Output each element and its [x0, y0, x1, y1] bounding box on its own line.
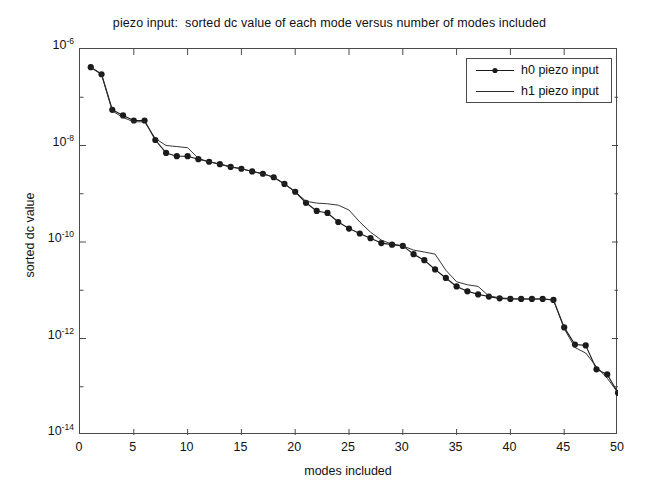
y-axis-tick-labels: 10-610-810-1010-1210-14 — [0, 0, 74, 501]
x-tick-label: 0 — [59, 440, 99, 454]
x-tick-label: 25 — [328, 440, 368, 454]
legend-entry-h1: h1 piezo input — [467, 81, 613, 102]
chart-title: piezo input: sorted dc value of each mod… — [0, 16, 659, 30]
y-axis-label: sorted dc value — [23, 145, 37, 325]
legend-sample-marker-line-icon — [474, 60, 516, 81]
chart-legend: h0 piezo input h1 piezo input — [466, 58, 612, 103]
y-tick-label: 10-8 — [53, 135, 74, 149]
chart-figure: piezo input: sorted dc value of each mod… — [0, 0, 659, 501]
legend-label-h0: h0 piezo input — [521, 63, 599, 77]
x-tick-label: 5 — [113, 440, 153, 454]
x-tick-label: 40 — [489, 440, 529, 454]
legend-sample-line-icon — [474, 81, 516, 102]
y-tick-label: 10-6 — [53, 38, 74, 52]
legend-label-h1: h1 piezo input — [521, 84, 599, 98]
x-tick-label: 50 — [597, 440, 637, 454]
plot-area — [79, 48, 617, 434]
x-tick-label: 10 — [167, 440, 207, 454]
x-tick-label: 30 — [382, 440, 422, 454]
x-tick-label: 15 — [220, 440, 260, 454]
x-tick-label: 20 — [274, 440, 314, 454]
x-tick-label: 45 — [543, 440, 583, 454]
legend-entry-h0: h0 piezo input — [467, 60, 613, 81]
y-tick-label: 10-10 — [48, 231, 74, 245]
x-axis-label: modes included — [79, 464, 617, 478]
y-tick-label: 10-14 — [48, 424, 74, 438]
plot-canvas — [80, 49, 618, 435]
x-tick-label: 35 — [436, 440, 476, 454]
y-tick-label: 10-12 — [48, 328, 74, 342]
